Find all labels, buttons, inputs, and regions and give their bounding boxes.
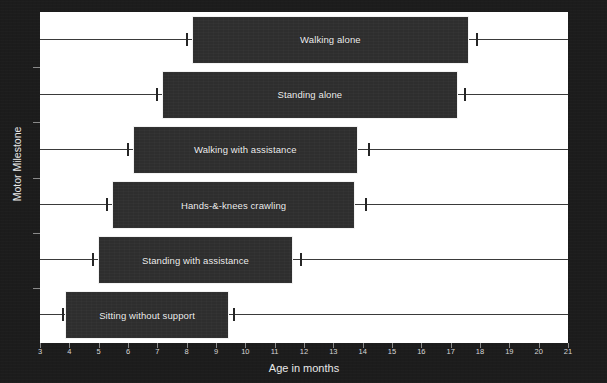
range-box-label: Walking alone [300,34,361,45]
whisker-cap-high [464,88,466,101]
x-tick-label: 3 [38,347,42,356]
whisker-cap-low [62,308,64,321]
whisker-cap-low [106,198,108,211]
whisker-cap-low [127,143,129,156]
x-tick-label: 17 [446,347,454,356]
x-tick-label: 7 [155,347,159,356]
whisker-cap-low [156,88,158,101]
x-tick-label: 11 [271,347,279,356]
range-box[interactable]: Hands-&-knees crawling [113,182,354,228]
x-tick-label: 14 [358,347,366,356]
x-tick-label: 4 [67,347,71,356]
x-tick-label: 13 [329,347,337,356]
whisker-cap-high [300,253,302,266]
whisker-cap-high [233,308,235,321]
whisker-cap-high [365,198,367,211]
x-tick-label: 19 [505,347,513,356]
chart-figure: Motor Milestone Walking aloneStanding al… [0,0,607,383]
x-tick-label: 6 [126,347,130,356]
x-tick-label: 21 [564,347,572,356]
whisker-cap-high [368,143,370,156]
x-tick-label: 8 [185,347,189,356]
y-tick [33,288,40,289]
y-tick [33,122,40,123]
x-tick-label: 15 [388,347,396,356]
range-box-label: Standing with assistance [142,255,249,266]
x-tick-label: 12 [300,347,308,356]
x-tick-label: 16 [417,347,425,356]
x-tick-label: 20 [534,347,542,356]
x-tick-label: 10 [241,347,249,356]
y-tick [33,178,40,179]
y-axis-ticks [33,12,40,343]
x-axis-label: Age in months [40,362,568,374]
x-tick-label: 5 [97,347,101,356]
x-tick-label: 18 [476,347,484,356]
x-tick-label: 9 [214,347,218,356]
range-box-label: Walking with assistance [194,144,297,155]
range-box[interactable]: Sitting without support [66,292,227,338]
whisker-cap-low [92,253,94,266]
whisker-cap-low [186,33,188,46]
range-box[interactable]: Walking with assistance [134,127,357,173]
y-axis-label: Motor Milestone [11,99,23,229]
y-tick [33,233,40,234]
whisker-cap-high [476,33,478,46]
range-box-label: Standing alone [277,89,342,100]
range-box[interactable]: Walking alone [193,17,469,63]
y-tick [33,67,40,68]
range-box-label: Hands-&-knees crawling [181,200,286,211]
range-box[interactable]: Standing alone [163,72,456,118]
plot-area: Walking aloneStanding aloneWalking with … [40,12,568,343]
range-box-label: Sitting without support [99,310,195,321]
range-box[interactable]: Standing with assistance [99,237,293,283]
